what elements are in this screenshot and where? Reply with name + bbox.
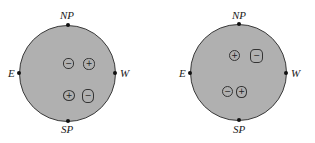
negative-sunspot-icon: − — [82, 89, 94, 103]
north-pole-marker — [237, 22, 241, 26]
positive-sunspot-icon: + — [229, 50, 240, 61]
east-marker — [188, 71, 192, 75]
positive-sunspot-icon: + — [83, 58, 95, 70]
north-pole-label: NP — [232, 10, 246, 21]
west-marker — [284, 71, 288, 75]
sun-diagram-right: NP SP E W — [0, 0, 315, 143]
east-label: E — [179, 68, 186, 79]
west-label: W — [291, 68, 300, 79]
south-pole-marker — [237, 118, 241, 122]
south-pole-label: SP — [233, 124, 245, 135]
positive-sunspot-icon: + — [63, 90, 75, 101]
solar-disc — [190, 24, 287, 121]
negative-sunspot-icon: − — [222, 86, 233, 97]
positive-sunspot-icon: + — [236, 86, 247, 98]
negative-sunspot-icon: − — [63, 58, 74, 69]
negative-sunspot-icon: − — [250, 49, 263, 63]
